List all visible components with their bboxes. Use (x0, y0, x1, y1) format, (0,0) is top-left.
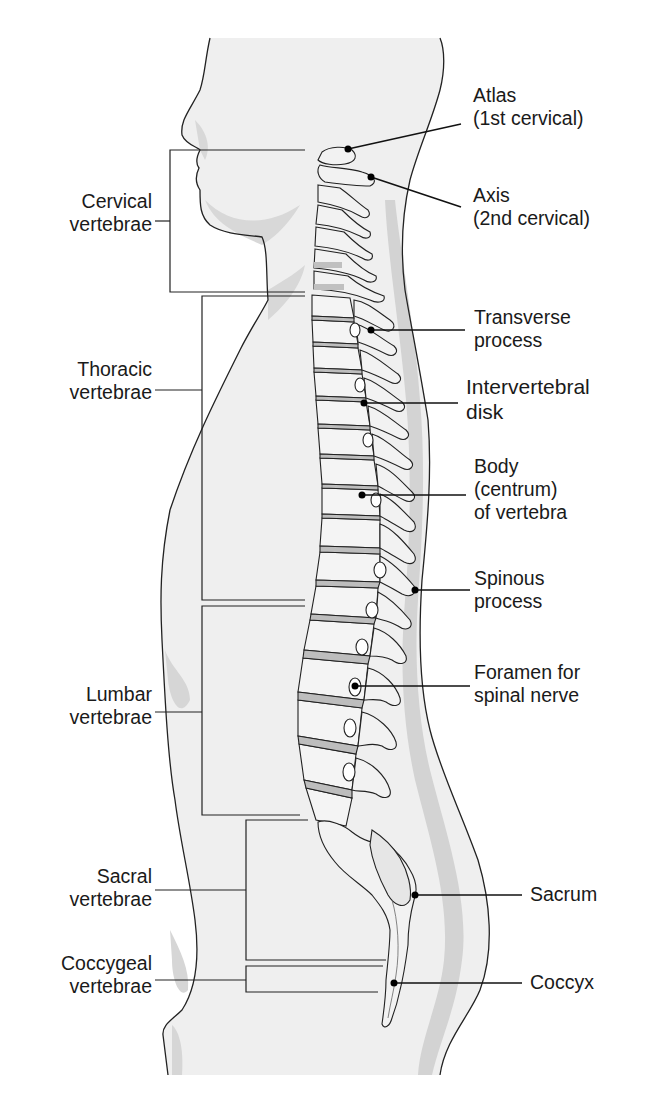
label-line: disk (466, 399, 590, 424)
label-spinous-process: Spinous process (474, 567, 544, 613)
label-line: process (474, 590, 544, 613)
label-line: Sacrum (530, 883, 597, 906)
label-line: Intervertebral (466, 374, 590, 399)
spine-diagram (0, 0, 651, 1104)
label-foramen-spinal-nerve: Foramen for spinal nerve (474, 661, 580, 707)
label-coccyx: Coccyx (530, 971, 594, 994)
label-sacral-vertebrae: Sacral vertebrae (70, 865, 152, 911)
label-axis: Axis (2nd cervical) (473, 184, 590, 230)
label-line: Thoracic (70, 358, 152, 381)
label-line: Body (474, 455, 567, 478)
label-line: Lumbar (70, 683, 152, 706)
label-line: (2nd cervical) (473, 207, 590, 230)
label-line: (centrum) (474, 478, 567, 501)
label-sacrum: Sacrum (530, 883, 597, 906)
label-line: Foramen for (474, 661, 580, 684)
label-line: vertebrae (70, 888, 152, 911)
label-line: process (474, 329, 571, 352)
label-line: Spinous (474, 567, 544, 590)
label-line: Coccygeal (61, 952, 152, 975)
label-line: vertebrae (70, 213, 152, 236)
label-atlas: Atlas (1st cervical) (473, 84, 584, 130)
label-line: Sacral (70, 865, 152, 888)
label-line: Transverse (474, 306, 571, 329)
label-line: Atlas (473, 84, 584, 107)
label-line: spinal nerve (474, 684, 580, 707)
label-body-centrum: Body (centrum) of vertebra (474, 455, 567, 524)
label-transverse-process: Transverse process (474, 306, 571, 352)
label-line: of vertebra (474, 501, 567, 524)
label-line: Axis (473, 184, 590, 207)
label-line: (1st cervical) (473, 107, 584, 130)
label-line: Coccyx (530, 971, 594, 994)
label-line: Cervical (70, 190, 152, 213)
label-coccygeal-vertebrae: Coccygeal vertebrae (61, 952, 152, 998)
label-cervical-vertebrae: Cervical vertebrae (70, 190, 152, 236)
label-intervertebral-disk: Intervertebral disk (466, 374, 590, 424)
label-thoracic-vertebrae: Thoracic vertebrae (70, 358, 152, 404)
label-line: vertebrae (70, 381, 152, 404)
label-line: vertebrae (61, 975, 152, 998)
label-line: vertebrae (70, 706, 152, 729)
label-lumbar-vertebrae: Lumbar vertebrae (70, 683, 152, 729)
